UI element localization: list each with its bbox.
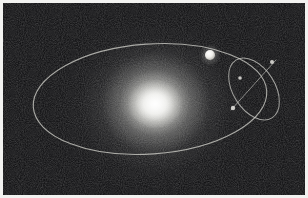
satellite-orbit-ellipse (218, 49, 290, 129)
orbit-paths (3, 3, 305, 195)
starfield-background (3, 3, 305, 195)
orbital-diagram-scene (0, 0, 308, 198)
node-descending (270, 60, 274, 64)
node-crossing (238, 76, 242, 80)
node-ascending (231, 106, 235, 110)
planet-orbit-ellipse (29, 36, 270, 162)
